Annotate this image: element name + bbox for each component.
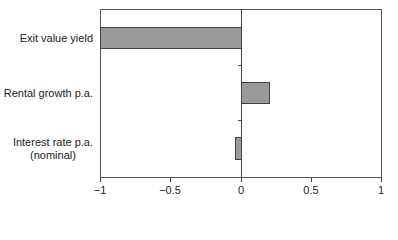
x-tick-label: 1: [361, 184, 398, 196]
x-tick: [311, 178, 312, 182]
x-tick: [170, 178, 171, 182]
category-label-rental-growth: Rental growth p.a.: [4, 87, 93, 100]
y-tick: [238, 120, 241, 121]
x-tick-label: 0: [221, 184, 261, 196]
x-tick: [100, 178, 101, 182]
x-tick-label: −1: [80, 184, 120, 196]
bar-rental-growth: [241, 82, 270, 104]
bar-exit-value-yield: [100, 27, 242, 49]
x-tick: [381, 178, 382, 182]
category-label-line2: (nominal): [13, 149, 93, 162]
category-label-exit-value-yield: Exit value yield: [20, 32, 93, 45]
x-tick-label: −0.5: [150, 184, 190, 196]
category-label-line1: Interest rate p.a.: [13, 136, 93, 149]
category-label-interest-rate: Interest rate p.a. (nominal): [13, 136, 93, 162]
x-tick: [241, 178, 242, 182]
y-tick: [238, 65, 241, 66]
x-tick-label: 0.5: [291, 184, 331, 196]
bar-interest-rate: [235, 137, 242, 160]
